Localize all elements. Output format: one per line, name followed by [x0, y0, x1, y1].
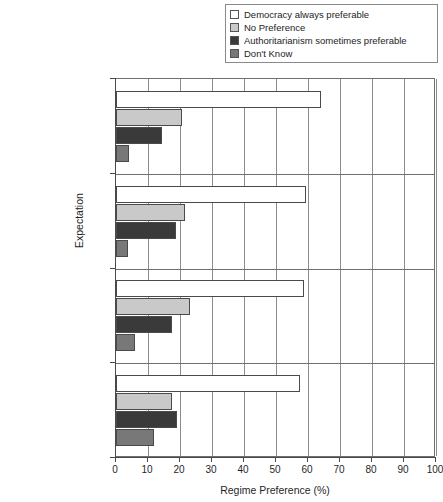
- bar: [116, 109, 182, 126]
- bar: [116, 91, 321, 108]
- x-axis-tick: [307, 457, 308, 462]
- x-axis-tick: [275, 457, 276, 462]
- x-axis: [115, 457, 435, 458]
- category-separator: [116, 174, 434, 175]
- x-axis-tick: [243, 457, 244, 462]
- x-axis-tick: [371, 457, 372, 462]
- legend-item: No Preference: [230, 21, 433, 33]
- x-axis-tick: [435, 457, 436, 462]
- x-axis-tick: [179, 457, 180, 462]
- gridline: [404, 79, 405, 456]
- legend-item: Don't Know: [230, 47, 433, 59]
- x-axis-tick-label: 30: [205, 464, 216, 476]
- y-axis-title: Expectation: [73, 193, 85, 248]
- bar: [116, 186, 306, 203]
- legend-label: Authoritarianism sometimes preferable: [244, 35, 407, 46]
- y-axis-tick: [110, 268, 115, 269]
- bar: [116, 298, 190, 315]
- x-axis-tick: [403, 457, 404, 462]
- bar: [116, 375, 300, 392]
- bar: [116, 222, 176, 239]
- bar: [116, 334, 135, 351]
- x-axis-title: Regime Preference (%): [115, 484, 435, 496]
- legend-label: No Preference: [244, 22, 305, 33]
- category-separator: [116, 269, 434, 270]
- x-axis-tick: [115, 457, 116, 462]
- legend-swatch-no-preference: [230, 23, 239, 32]
- category-separator: [116, 363, 434, 364]
- gridline: [276, 79, 277, 456]
- legend-swatch-democracy-always-preferable: [230, 10, 239, 19]
- x-axis-tick: [147, 457, 148, 462]
- legend-label: Don't Know: [244, 48, 292, 59]
- legend-item: Authoritarianism sometimes preferable: [230, 34, 433, 46]
- bar: [116, 411, 177, 428]
- bar: [116, 280, 304, 297]
- gridline: [212, 79, 213, 456]
- x-axis-tick: [211, 457, 212, 462]
- bar: [116, 393, 172, 410]
- x-axis-tick-label: 90: [397, 464, 408, 476]
- x-axis-tick-label: 70: [333, 464, 344, 476]
- gridline: [372, 79, 373, 456]
- gridline: [436, 79, 437, 456]
- legend-swatch-dont-know: [230, 49, 239, 58]
- y-axis-tick: [110, 173, 115, 174]
- x-axis-tick-label: 100: [427, 464, 443, 476]
- chart-legend: Democracy always preferable No Preferenc…: [225, 4, 438, 63]
- x-axis-tick-label: 40: [237, 464, 248, 476]
- bar: [116, 240, 128, 257]
- x-axis-tick-label: 10: [141, 464, 152, 476]
- bar: [116, 145, 129, 162]
- legend-label: Democracy always preferable: [244, 9, 369, 20]
- bar: [116, 127, 162, 144]
- legend-swatch-authoritarianism-sometimes-preferable: [230, 36, 239, 45]
- y-axis: Expectation: [115, 78, 116, 457]
- x-axis-tick-label: 0: [112, 464, 118, 476]
- gridline: [244, 79, 245, 456]
- x-axis-tick-label: 20: [173, 464, 184, 476]
- x-axis-tick-label: 50: [269, 464, 280, 476]
- bar: [116, 204, 185, 221]
- bar: [116, 429, 154, 446]
- plot-area: [115, 78, 435, 457]
- gridline: [340, 79, 341, 456]
- gridline: [180, 79, 181, 456]
- bar: [116, 316, 172, 333]
- gridline: [308, 79, 309, 456]
- x-axis-tick: [339, 457, 340, 462]
- y-axis-tick: [110, 78, 115, 79]
- legend-item: Democracy always preferable: [230, 8, 433, 20]
- y-axis-tick: [110, 362, 115, 363]
- x-axis-tick-label: 60: [301, 464, 312, 476]
- x-axis-tick-label: 80: [365, 464, 376, 476]
